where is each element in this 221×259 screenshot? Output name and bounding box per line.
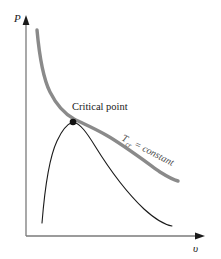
y-axis-arrowhead	[23, 15, 30, 25]
pv-diagram-figure: P υ Critical point T cr = constant	[0, 0, 221, 259]
isotherm-label-rest: = constant	[133, 138, 177, 167]
saturation-dome-curve	[42, 122, 172, 226]
critical-point-label: Critical point	[72, 101, 128, 112]
pv-diagram-svg: P υ Critical point T cr = constant	[0, 0, 221, 259]
critical-point-marker	[70, 119, 77, 126]
y-axis-label: P	[13, 12, 21, 24]
x-axis-arrowhead	[195, 233, 205, 240]
x-axis-label: υ	[193, 242, 198, 254]
